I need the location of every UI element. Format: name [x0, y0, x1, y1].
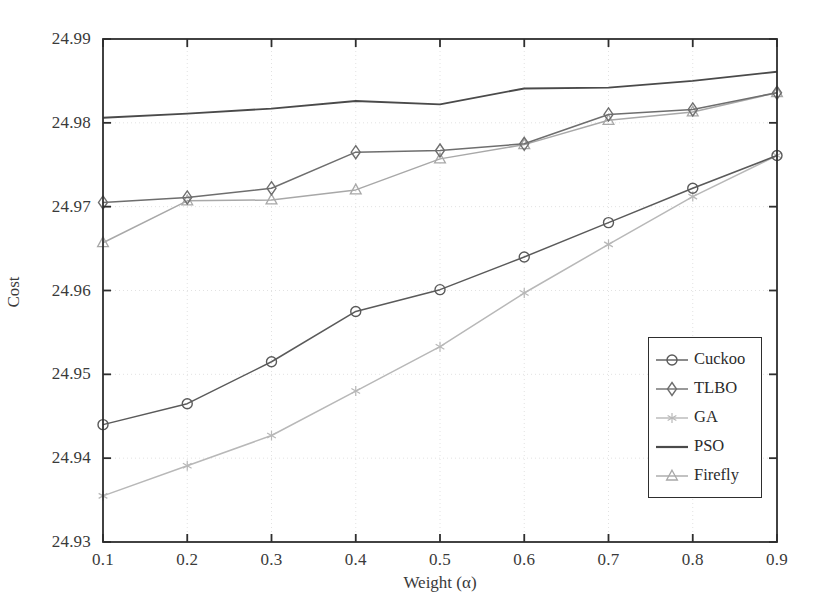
data-point-marker [436, 342, 445, 352]
legend-item-pso: PSO [655, 432, 753, 461]
legend-label: Firefly [694, 467, 739, 484]
legend-marker-none-icon [655, 439, 689, 455]
legend-item-tlbo: TLBO [655, 374, 753, 403]
data-point-marker [267, 431, 276, 441]
legend-label: TLBO [694, 380, 737, 397]
legend-label: PSO [694, 438, 724, 455]
legend-marker-triangle-icon [655, 468, 689, 484]
y-tick-label: 24.99 [0, 29, 91, 49]
data-point-marker [351, 386, 360, 396]
legend-label: GA [694, 409, 718, 426]
data-point-marker [604, 239, 613, 249]
x-tick-label: 0.6 [513, 550, 535, 570]
x-tick-label: 0.4 [345, 550, 367, 570]
y-tick-label: 24.98 [0, 113, 91, 133]
y-tick-label: 24.95 [0, 364, 91, 384]
y-tick-label: 24.93 [0, 532, 91, 552]
legend-marker-circle-icon [655, 352, 689, 368]
x-tick-label: 0.3 [261, 550, 283, 570]
x-tick-label: 0.9 [766, 550, 788, 570]
legend-marker-diamond-icon [655, 381, 689, 397]
legend-item-firefly: Firefly [655, 461, 753, 490]
x-tick-label: 0.7 [598, 550, 620, 570]
y-axis-title: Cost [4, 276, 24, 307]
x-tick-label: 0.8 [682, 550, 704, 570]
chart-figure: 24.9324.9424.9524.9624.9724.9824.99 0.10… [0, 0, 818, 613]
y-tick-label: 24.97 [0, 197, 91, 217]
x-tick-label: 0.5 [429, 550, 451, 570]
legend-item-ga: GA [655, 403, 753, 432]
legend: CuckooTLBOGAPSOFirefly [648, 337, 762, 498]
x-axis-title: Weight (α) [403, 573, 476, 593]
legend-label: Cuckoo [694, 351, 745, 368]
plot-canvas [0, 0, 818, 613]
x-tick-label: 0.2 [176, 550, 198, 570]
y-tick-label: 24.94 [0, 448, 91, 468]
legend-item-cuckoo: Cuckoo [655, 345, 753, 374]
x-tick-label: 0.1 [92, 550, 114, 570]
data-point-marker [183, 461, 192, 471]
data-point-marker [520, 288, 529, 298]
legend-marker-asterisk-icon [655, 410, 689, 426]
data-point-marker [667, 470, 678, 480]
